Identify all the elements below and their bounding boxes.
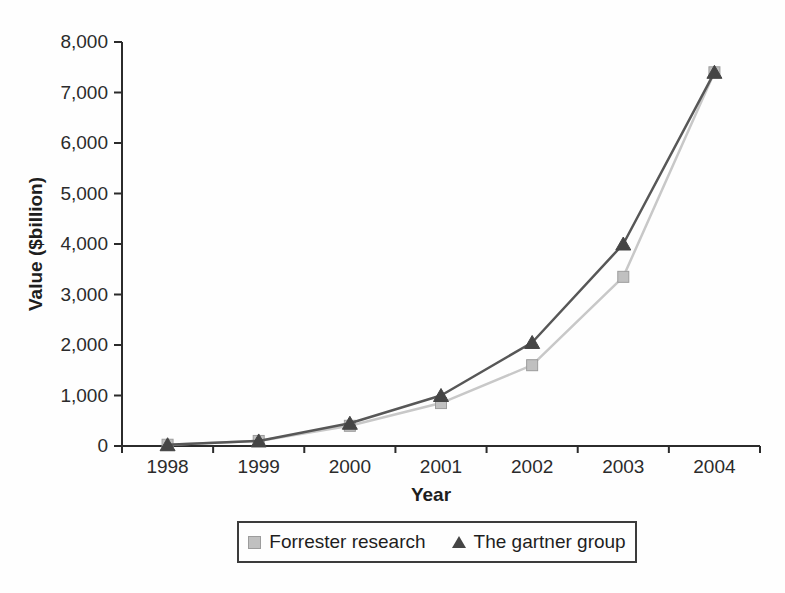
svg-text:7,000: 7,000 (60, 82, 108, 103)
legend-label-gartner: The gartner group (474, 531, 626, 553)
x-axis-title: Year (411, 484, 451, 506)
svg-text:3,000: 3,000 (60, 284, 108, 305)
svg-text:2000: 2000 (329, 456, 371, 477)
svg-text:0: 0 (97, 435, 108, 456)
svg-text:4,000: 4,000 (60, 233, 108, 254)
chart-page: 01,0002,0003,0004,0005,0006,0007,0008,00… (0, 0, 785, 593)
svg-text:8,000: 8,000 (60, 31, 108, 52)
legend-item-gartner: The gartner group (452, 531, 626, 553)
svg-text:6,000: 6,000 (60, 132, 108, 153)
svg-text:5,000: 5,000 (60, 183, 108, 204)
svg-text:2,000: 2,000 (60, 334, 108, 355)
legend-label-forrester: Forrester research (269, 531, 425, 553)
svg-text:2001: 2001 (420, 456, 462, 477)
svg-text:2002: 2002 (511, 456, 553, 477)
svg-text:2004: 2004 (693, 456, 736, 477)
svg-text:1999: 1999 (238, 456, 280, 477)
legend: Forrester research The gartner group (237, 521, 637, 563)
legend-item-forrester: Forrester research (248, 531, 425, 553)
svg-text:1,000: 1,000 (60, 385, 108, 406)
y-axis-title: Value ($billion) (25, 177, 47, 311)
gartner-triangle-marker-icon (452, 536, 466, 548)
line-chart-canvas: 01,0002,0003,0004,0005,0006,0007,0008,00… (0, 0, 785, 593)
svg-text:1998: 1998 (146, 456, 188, 477)
svg-text:2003: 2003 (602, 456, 644, 477)
forrester-square-marker-icon (248, 536, 261, 549)
